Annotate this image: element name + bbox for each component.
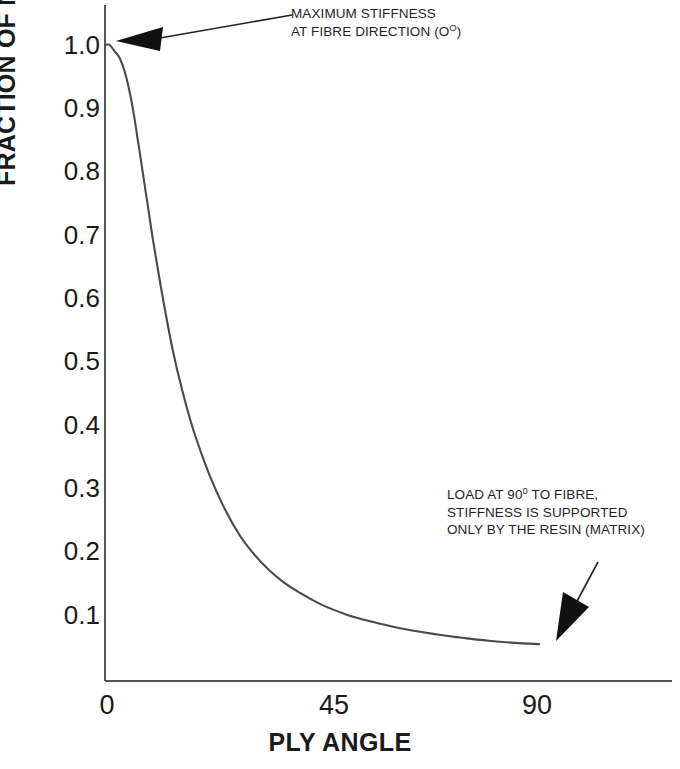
x-axis-tick-labels: 0 45 90 xyxy=(0,688,680,726)
x-tick-label: 0 xyxy=(67,688,147,722)
x-tick-label: 90 xyxy=(497,688,577,722)
annotation-line: STIFFNESS IS SUPPORTED xyxy=(447,504,645,522)
annotation-line: ONLY BY THE RESIN (MATRIX) xyxy=(447,521,645,539)
annotation-text: ) xyxy=(457,24,462,39)
annotation-leader-line-resin-matrix xyxy=(575,562,598,605)
annotation-max-stiffness: MAXIMUM STIFFNESS AT FIBRE DIRECTION (OO… xyxy=(291,5,461,40)
annotation-line: AT FIBRE DIRECTION (OO) xyxy=(291,23,461,41)
annotation-leader-line-max-stiffness xyxy=(160,15,292,38)
annotation-text: AT FIBRE DIRECTION (O xyxy=(291,24,449,39)
annotation-line: MAXIMUM STIFFNESS xyxy=(291,5,461,23)
plot-area xyxy=(0,0,680,769)
chart-figure: FRACTION OF MAXIMUM STIFFNESS 1.0 0.9 0.… xyxy=(0,0,680,769)
annotation-text: TO FIBRE, xyxy=(528,487,598,502)
degree-symbol: O xyxy=(449,21,457,32)
stiffness-decay-curve xyxy=(105,45,539,645)
annotation-text: LOAD AT 90 xyxy=(447,487,523,502)
annotation-resin-matrix: LOAD AT 900 TO FIBRE, STIFFNESS IS SUPPO… xyxy=(447,486,645,539)
x-axis-title: PLY ANGLE xyxy=(0,727,680,757)
x-tick-label: 45 xyxy=(294,688,374,722)
annotation-line: LOAD AT 900 TO FIBRE, xyxy=(447,486,645,504)
arrowhead-icon-resin-matrix xyxy=(556,592,589,641)
arrowhead-icon-max-stiffness xyxy=(116,27,163,51)
